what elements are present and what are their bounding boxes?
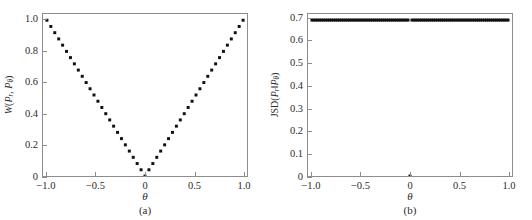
data-point xyxy=(171,131,174,134)
data-point xyxy=(191,100,194,103)
data-point xyxy=(53,31,56,34)
y-tick-mark xyxy=(307,18,312,19)
data-point xyxy=(175,125,178,128)
data-point xyxy=(108,118,111,121)
y-tick-mark xyxy=(42,145,47,146)
x-tick-label: −0.5 xyxy=(351,181,370,192)
y-tick-mark xyxy=(307,131,312,132)
x-axis-label-b: θ xyxy=(407,190,412,202)
y-tick-mark xyxy=(42,114,47,115)
data-point xyxy=(159,150,162,153)
data-point xyxy=(183,112,186,115)
data-point xyxy=(140,168,143,171)
x-tick-mark xyxy=(195,172,196,177)
data-point xyxy=(187,106,190,109)
data-point xyxy=(120,137,123,140)
data-point xyxy=(93,94,96,97)
y-tick-label: 0.2 xyxy=(2,140,38,151)
data-point xyxy=(100,106,103,109)
plot-area-b xyxy=(308,14,512,176)
plot-frame-a xyxy=(42,13,248,177)
plot-frame-b xyxy=(307,13,513,177)
x-tick-mark xyxy=(460,172,461,177)
data-point xyxy=(210,69,213,72)
data-point xyxy=(226,44,229,47)
data-point xyxy=(238,25,241,28)
data-point xyxy=(151,162,154,165)
data-point xyxy=(234,31,237,34)
data-point xyxy=(81,75,84,78)
data-point xyxy=(61,44,64,47)
data-point xyxy=(57,37,60,40)
x-tick-mark xyxy=(244,172,245,177)
x-tick-label: 0.5 xyxy=(188,181,201,192)
data-point xyxy=(206,75,209,78)
x-tick-mark xyxy=(46,172,47,177)
x-tick-mark xyxy=(145,172,146,177)
x-tick-mark xyxy=(95,172,96,177)
data-point xyxy=(155,156,158,159)
data-point xyxy=(116,131,119,134)
y-tick-mark xyxy=(307,177,312,178)
data-point xyxy=(85,81,88,84)
plot-area-a xyxy=(43,14,247,176)
y-tick-mark xyxy=(307,86,312,87)
x-tick-mark xyxy=(311,172,312,177)
data-point xyxy=(73,62,76,65)
data-point xyxy=(222,50,225,53)
data-point xyxy=(198,87,201,90)
scatter-series-jsd xyxy=(308,14,512,176)
y-tick-label: 0.2 xyxy=(267,126,303,137)
data-point xyxy=(104,112,107,115)
x-tick-label: −0.5 xyxy=(86,181,105,192)
data-point xyxy=(202,81,205,84)
data-point xyxy=(49,25,52,28)
x-tick-label: 1.0 xyxy=(237,181,250,192)
data-point xyxy=(214,62,217,65)
data-point xyxy=(136,162,139,165)
data-point xyxy=(195,94,198,97)
y-tick-mark xyxy=(42,177,47,178)
y-tick-mark xyxy=(307,40,312,41)
y-tick-label: 0.8 xyxy=(2,46,38,57)
y-tick-label: 1.0 xyxy=(2,14,38,25)
data-point xyxy=(69,56,72,59)
y-tick-mark xyxy=(307,109,312,110)
data-point xyxy=(65,50,68,53)
x-tick-label: 0.5 xyxy=(453,181,466,192)
x-tick-mark xyxy=(509,172,510,177)
y-tick-label: 0 xyxy=(2,172,38,183)
data-point xyxy=(89,87,92,90)
data-point xyxy=(407,19,410,22)
data-point xyxy=(147,168,150,171)
scatter-series-wasserstein xyxy=(43,14,247,176)
y-tick-label: 0 xyxy=(267,172,303,183)
y-tick-label: 0.1 xyxy=(267,149,303,160)
y-tick-mark xyxy=(307,63,312,64)
x-tick-mark xyxy=(410,172,411,177)
y-tick-label: 0.6 xyxy=(267,35,303,46)
y-tick-label: 0.7 xyxy=(267,12,303,23)
x-tick-label: −1.0 xyxy=(301,181,320,192)
data-point xyxy=(218,56,221,59)
y-axis-label-b: JSD(Pr‖Pθ) xyxy=(269,73,282,118)
y-tick-mark xyxy=(42,51,47,52)
y-tick-mark xyxy=(307,154,312,155)
data-point xyxy=(167,137,170,140)
data-point xyxy=(128,150,131,153)
data-point xyxy=(112,125,115,128)
y-tick-mark xyxy=(42,19,47,20)
y-tick-mark xyxy=(42,82,47,83)
data-point xyxy=(96,100,99,103)
data-point xyxy=(124,143,127,146)
x-axis-label-a: θ xyxy=(142,190,147,202)
data-point xyxy=(77,69,80,72)
data-point xyxy=(132,156,135,159)
x-tick-label: 1.0 xyxy=(502,181,515,192)
data-point xyxy=(179,118,182,121)
y-tick-label: 0.5 xyxy=(267,58,303,69)
data-point xyxy=(163,143,166,146)
data-point xyxy=(230,37,233,40)
data-point xyxy=(507,19,510,22)
panel-caption-b: (b) xyxy=(404,204,417,216)
